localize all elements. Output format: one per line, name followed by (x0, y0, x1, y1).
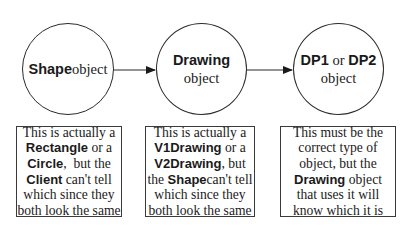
text-line: object (321, 69, 356, 87)
label-text: or a (88, 140, 112, 155)
class-name: V1Drawing (154, 140, 221, 155)
label-text: which since they (23, 187, 114, 202)
label-text: This is actually a (154, 125, 247, 140)
class-name: DP1 (301, 52, 329, 68)
label-text: can't tell (62, 172, 111, 187)
note-shape: This is actually aRectangle or aCircle, … (16, 126, 122, 217)
text-line: Drawing (173, 51, 230, 69)
label-text: that uses it will (297, 187, 380, 202)
label-text: This is actually a (23, 125, 116, 140)
text-line: both look the same (146, 203, 254, 219)
text-line: Drawing object (281, 172, 395, 188)
label-text: object (184, 70, 219, 86)
label-text: object, but the (299, 156, 376, 171)
label-text: know which it is (293, 203, 383, 218)
class-name: Shape (29, 61, 73, 77)
label-text: object (321, 70, 356, 86)
label-text: , but the (63, 156, 111, 171)
class-name: Circle (27, 156, 63, 171)
label-text: object (345, 172, 382, 187)
text-line: object, but the (281, 156, 395, 172)
class-name: Drawing (173, 52, 230, 68)
text-line: This is actually a (146, 125, 254, 141)
text-line: Shapeobject (29, 60, 108, 78)
label-text: or (329, 52, 348, 68)
note-drawing: This is actually aV1Drawing or aV2Drawin… (145, 126, 255, 217)
text-line: that uses it will (281, 187, 395, 203)
class-name: DP2 (348, 52, 376, 68)
label-text: the (148, 172, 168, 187)
text-line: the Shapecan't tell (146, 172, 254, 188)
class-name: Client (26, 172, 62, 187)
text-line: Client can't tell (17, 172, 121, 188)
node-dp-object: DP1 or DP2object (293, 23, 384, 115)
class-name: V2Drawing (154, 156, 221, 171)
text-line: V1Drawing or a (146, 140, 254, 156)
label-text: which since they (154, 187, 245, 202)
text-line: which since they (146, 187, 254, 203)
label-text: or a (222, 140, 246, 155)
label-text: , but (222, 156, 246, 171)
label-text: This must be the (293, 125, 383, 140)
class-name: Drawing (294, 172, 345, 187)
text-line: Circle, but the (17, 156, 121, 172)
text-line: correct type of (281, 140, 395, 156)
text-line: which since they (17, 187, 121, 203)
label-text: object (72, 61, 107, 77)
class-name: Rectangle (26, 140, 88, 155)
label-text: correct type of (298, 140, 377, 155)
text-line: Rectangle or a (17, 140, 121, 156)
diagram: Shapeobject Drawingobject DP1 or DP2obje… (0, 0, 408, 234)
node-drawing-object: Drawingobject (156, 23, 247, 115)
label-text: both look the same (17, 203, 120, 218)
class-name: Shape (168, 172, 207, 187)
text-line: know which it is (281, 203, 395, 219)
text-line: DP1 or DP2 (301, 51, 377, 69)
text-line: This must be the (281, 125, 395, 141)
text-line: V2Drawing, but (146, 156, 254, 172)
text-line: both look the same (17, 203, 121, 219)
text-line: object (184, 69, 219, 87)
label-text: can't tell (207, 172, 253, 187)
node-shape-object: Shapeobject (22, 23, 114, 115)
note-dp: This must be thecorrect type ofobject, b… (280, 126, 396, 217)
label-text: both look the same (148, 203, 251, 218)
text-line: This is actually a (17, 125, 121, 141)
